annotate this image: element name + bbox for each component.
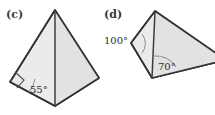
figure-d: 100° 70° (d) [104,8,215,78]
geometry-figure-canvas: 55° (c) 100° 70° (d) [0,0,215,115]
figure-d-label: (d) [104,8,122,21]
figure-c-label: (c) [6,8,23,21]
figure-c: 55° (c) [6,8,99,106]
figure-d-angle-70-label: 70° [158,61,176,72]
figure-c-angle-55-label: 55° [30,84,48,95]
figure-d-angle-100-label: 100° [104,35,128,46]
